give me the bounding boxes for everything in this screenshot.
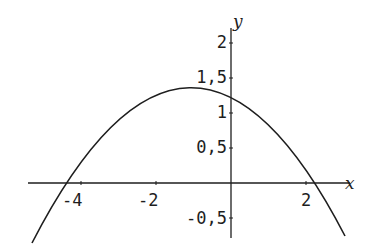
y-tick-label: 2 (217, 32, 227, 52)
x-tick-label: -2 (138, 190, 158, 210)
y-tick-label: 0,5 (196, 137, 227, 157)
x-axis-label: x (345, 173, 355, 193)
chart: -4 -2 2 2 1,5 1 0,5 -0,5 y x (0, 0, 370, 247)
y-tick-label: 1 (217, 102, 227, 122)
x-tick-label: 2 (301, 190, 311, 210)
y-tick-label: 1,5 (196, 67, 227, 87)
y-axis-label: y (232, 11, 243, 31)
y-tick-label: -0,5 (186, 208, 227, 228)
x-tick-label: -4 (62, 190, 82, 210)
